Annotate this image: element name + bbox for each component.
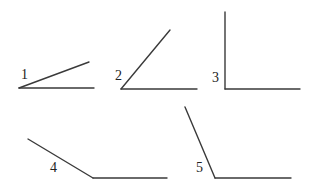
angle-4-label: 4 (50, 160, 57, 175)
angle-2-arm-ray (121, 30, 170, 89)
angle-1-label: 1 (21, 67, 28, 82)
angle-4: 4 (28, 139, 167, 178)
angle-4-arm-ray (28, 139, 93, 178)
angle-1: 1 (19, 62, 94, 88)
angle-5: 5 (185, 107, 291, 178)
angle-2-label: 2 (115, 68, 122, 83)
angles-diagram: 1 2 3 4 5 (0, 0, 322, 188)
angle-2: 2 (115, 30, 197, 89)
angle-3: 3 (212, 12, 300, 89)
angle-5-label: 5 (196, 160, 203, 175)
angle-1-arm-ray (19, 62, 89, 88)
angle-3-label: 3 (212, 70, 219, 85)
